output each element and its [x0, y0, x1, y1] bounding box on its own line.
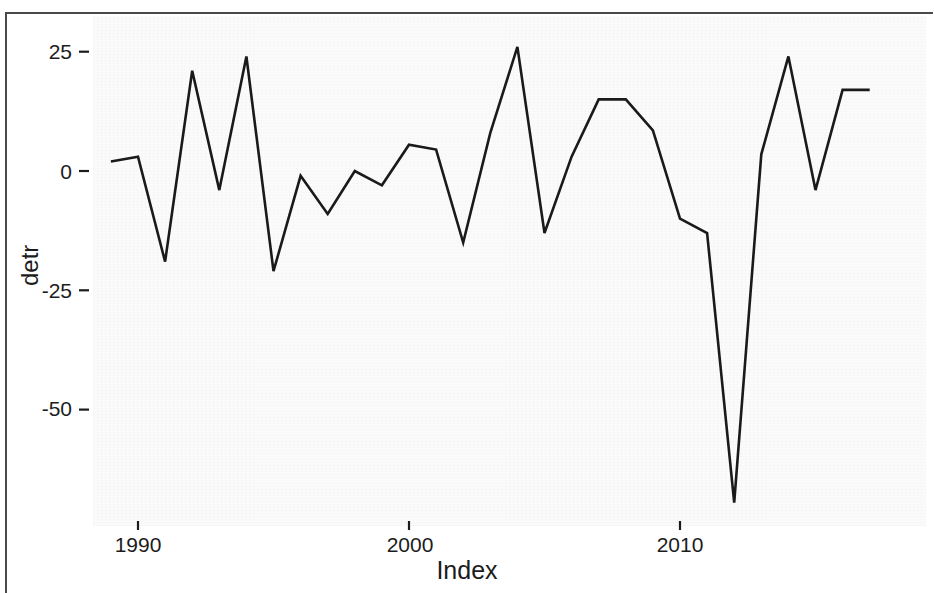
line-chart-plot — [0, 0, 934, 593]
chart-figure: 25 0 -25 -50 1990 2000 2010 detr Index — [0, 0, 934, 593]
y-axis-title: detr — [16, 246, 44, 286]
x-tick-label-2000: 2000 — [370, 533, 450, 557]
y-tick-label-minus50: -50 — [28, 397, 72, 421]
detr-series-line — [111, 47, 870, 503]
x-tick-label-1990: 1990 — [98, 533, 178, 557]
x-tick-label-2010: 2010 — [640, 533, 720, 557]
figure-page: 25 0 -25 -50 1990 2000 2010 detr Index — [0, 0, 934, 593]
tick-marks — [79, 52, 680, 530]
x-axis-title: Index — [0, 556, 934, 585]
y-tick-label-0: 0 — [34, 160, 72, 184]
y-tick-label-25: 25 — [34, 40, 72, 64]
